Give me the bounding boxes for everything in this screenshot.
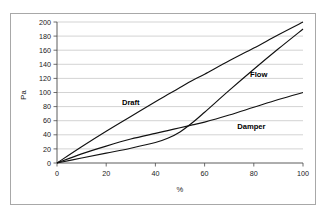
y-tick-label-60: 60 [43,116,51,125]
y-tick-label-80: 80 [43,102,51,111]
x-tick-labels: 0 20 40 60 80 100 [55,169,309,178]
y-axis [54,22,58,163]
x-tick-label-80: 80 [250,169,258,178]
y-axis-title-group: Pa [19,90,28,100]
chart-plot: 200 180 160 140 120 100 80 60 40 20 0 Pa… [0,0,326,220]
series-label-damper: Damper [237,122,265,131]
y-tick-label-100: 100 [39,88,51,97]
x-tick-label-100: 100 [297,169,309,178]
y-tick-label-40: 40 [43,130,51,139]
y-tick-label-180: 180 [39,32,51,41]
y-axis-title: Pa [19,90,28,100]
y-tick-label-0: 0 [47,159,51,168]
x-tick-label-40: 40 [151,169,159,178]
y-tick-label-160: 160 [39,46,51,55]
x-axis [57,163,303,167]
y-tick-label-120: 120 [39,74,51,83]
series-label-flow: Flow [250,70,267,79]
x-axis-title: % [177,185,184,194]
x-tick-label-20: 20 [102,169,110,178]
y-tick-labels: 200 180 160 140 120 100 80 60 40 20 0 [39,18,51,168]
series-label-draft: Draft [122,98,140,107]
chart-figure: 200 180 160 140 120 100 80 60 40 20 0 Pa… [0,0,326,220]
y-tick-label-140: 140 [39,60,51,69]
x-tick-label-60: 60 [201,169,209,178]
y-tick-label-20: 20 [43,145,51,154]
x-tick-label-0: 0 [55,169,59,178]
y-tick-label-200: 200 [39,18,51,27]
